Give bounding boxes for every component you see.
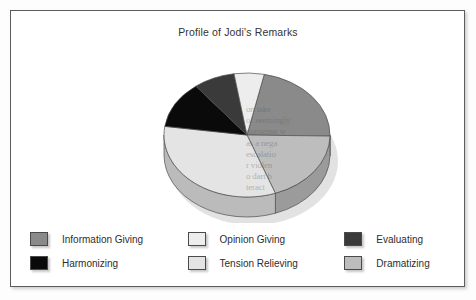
pie-chart-svg bbox=[150, 48, 350, 223]
legend-row: Information Giving Opinion Giving Evalua… bbox=[18, 228, 458, 250]
chart-title: Profile of Jodi's Remarks bbox=[0, 26, 476, 38]
legend-item-label: Opinion Giving bbox=[220, 234, 286, 245]
pie-chart bbox=[150, 48, 350, 223]
legend-swatch bbox=[188, 232, 206, 246]
legend-item-label: Harmonizing bbox=[62, 258, 118, 269]
legend-item[interactable]: Tension Relieving bbox=[182, 252, 335, 274]
legend-item[interactable]: Opinion Giving bbox=[182, 228, 335, 250]
figure-container: Profile of Jodi's Remarks on take of see… bbox=[0, 0, 476, 300]
legend-swatch bbox=[188, 256, 206, 270]
legend-item-label: Information Giving bbox=[62, 234, 143, 245]
legend-swatch bbox=[344, 256, 362, 270]
legend-swatch bbox=[30, 256, 48, 270]
legend-item[interactable]: Harmonizing bbox=[18, 252, 182, 274]
legend-item-label: Tension Relieving bbox=[220, 258, 298, 269]
legend-item[interactable]: Dramatizing bbox=[334, 252, 458, 274]
legend-item-label: Evaluating bbox=[376, 234, 423, 245]
legend-item-label: Dramatizing bbox=[376, 258, 429, 269]
legend-swatch bbox=[344, 232, 362, 246]
legend-swatch bbox=[30, 232, 48, 246]
legend-item[interactable]: Information Giving bbox=[18, 228, 182, 250]
legend-row: Harmonizing Tension Relieving Dramatizin… bbox=[18, 252, 458, 274]
legend-item[interactable]: Evaluating bbox=[334, 228, 458, 250]
chart-legend: Information Giving Opinion Giving Evalua… bbox=[18, 228, 458, 278]
